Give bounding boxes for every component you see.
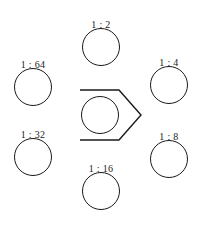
ratio-diagram-canvas: 1 : 2 1 : 4 1 : 8 1 : 16 1 : 32 1 : 64	[0, 0, 200, 226]
label-ratio-1-8: 1 : 8	[129, 131, 200, 142]
label-ratio-1-4: 1 : 4	[129, 57, 200, 68]
circle-ratio-1-8	[150, 140, 188, 178]
circle-ratio-1-32	[14, 138, 52, 176]
label-ratio-1-64: 1 : 64	[0, 59, 73, 70]
label-ratio-1-2: 1 : 2	[61, 19, 141, 30]
circle-ratio-1-64	[14, 68, 52, 106]
circle-ratio-1-4	[150, 66, 188, 104]
circle-ratio-1-2	[82, 28, 120, 66]
label-ratio-1-32: 1 : 32	[0, 129, 73, 140]
center-circle	[81, 96, 119, 134]
label-ratio-1-16: 1 : 16	[61, 163, 141, 174]
circle-ratio-1-16	[82, 172, 120, 210]
